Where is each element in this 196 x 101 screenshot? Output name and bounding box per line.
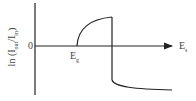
curve-rising (77, 17, 112, 46)
zero-label: 0 (28, 40, 33, 51)
gap-energy-label: Eg (70, 50, 79, 63)
x-axis-label: Es (179, 40, 187, 53)
curve-tail (112, 80, 172, 90)
y-axis-label: ln (Iout/Iin) (6, 12, 20, 82)
